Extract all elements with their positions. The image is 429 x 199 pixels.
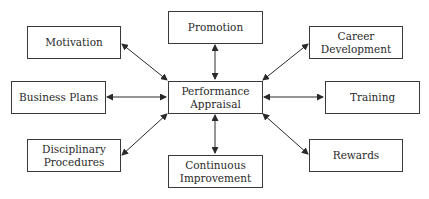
node-business-plans: Business Plans	[11, 81, 106, 114]
node-continuous-improvement: Continuous Improvement	[168, 155, 263, 188]
node-label: Motivation	[45, 36, 103, 49]
node-label: Rewards	[333, 149, 380, 162]
arrow-disciplinary-procedures	[122, 114, 167, 155]
node-label: Training	[350, 91, 395, 104]
node-rewards: Rewards	[309, 139, 403, 172]
node-label-line1: Continuous	[180, 159, 251, 172]
center-label-line1: Performance	[181, 85, 249, 98]
node-promotion: Promotion	[168, 11, 263, 44]
node-label: Promotion	[188, 21, 243, 34]
node-career-development: Career Development	[309, 26, 403, 59]
arrow-motivation	[122, 44, 167, 80]
arrow-rewards	[263, 114, 308, 154]
node-label: Business Plans	[19, 91, 98, 104]
node-label-line1: Career	[321, 30, 391, 43]
node-label-line2: Development	[321, 43, 391, 56]
arrow-career-development	[263, 44, 308, 80]
center-label-line2: Appraisal	[181, 98, 249, 111]
node-performance-appraisal: Performance Appraisal	[168, 81, 263, 114]
node-training: Training	[325, 81, 420, 114]
node-motivation: Motivation	[27, 26, 121, 59]
node-label-line2: Procedures	[42, 156, 106, 169]
node-label-line1: Disciplinary	[42, 143, 106, 156]
node-disciplinary-procedures: Disciplinary Procedures	[27, 139, 121, 172]
node-label-line2: Improvement	[180, 172, 251, 185]
